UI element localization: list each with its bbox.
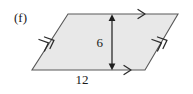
base-label: 12 (76, 72, 89, 87)
part-label: (f) (14, 10, 27, 25)
height-label: 6 (97, 35, 104, 50)
figure-canvas: (f) 6 12 (0, 0, 193, 94)
geometry-figure: (f) 6 12 (0, 0, 193, 94)
